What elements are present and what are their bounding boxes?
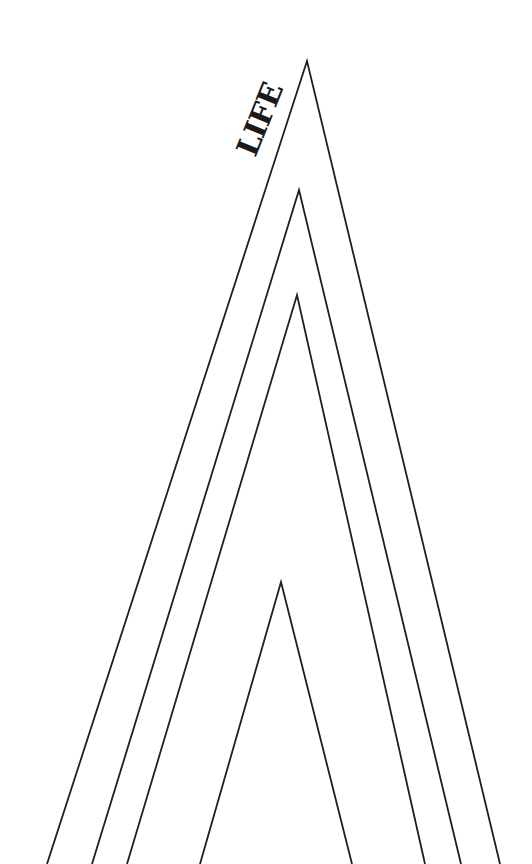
arch-second: [92, 190, 461, 864]
arch-inner: [200, 582, 352, 864]
arch-third: [127, 295, 425, 864]
nested-arches-diagram: LIFE: [0, 0, 532, 864]
